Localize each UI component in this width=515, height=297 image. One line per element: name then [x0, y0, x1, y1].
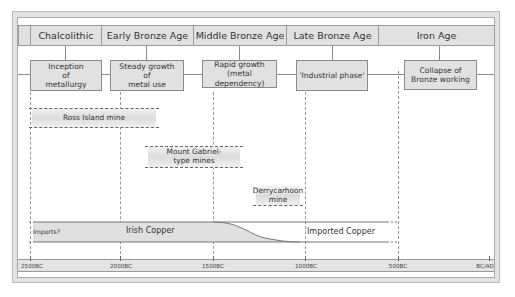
tick-label-2000bc: 2000BC	[110, 263, 132, 269]
irish-copper-label: Irish Copper	[126, 226, 175, 235]
imported-copper-label: Imported Copper	[307, 227, 375, 236]
axis-tick	[30, 256, 31, 261]
tick-label-1500bc: 1500BC	[202, 263, 224, 269]
tick-label-500bc: 500BC	[389, 263, 407, 269]
tick-label-2500bc: 2500BC	[21, 263, 43, 269]
tick-label-1000bc: 1000BC	[295, 263, 317, 269]
tick-label-bc-ad: BC/AD	[476, 263, 494, 269]
time-axis	[18, 259, 494, 272]
axis-tick	[398, 256, 399, 261]
axis-tick	[489, 256, 490, 261]
imports-label: Imports?	[33, 228, 60, 235]
axis-tick	[120, 256, 121, 261]
axis-tick	[213, 256, 214, 261]
axis-tick	[305, 256, 306, 261]
copper-source-band	[0, 0, 515, 297]
